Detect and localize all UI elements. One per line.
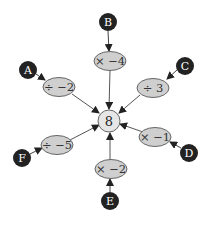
- letter-node-a: A: [19, 61, 37, 79]
- operation-label-e: × −2: [96, 162, 126, 176]
- center-node: 8: [98, 110, 120, 132]
- letter-node-b: B: [99, 13, 117, 31]
- arrow-c: [167, 70, 177, 79]
- operation-label-a: ÷ −2: [44, 80, 74, 94]
- letter-label-e: E: [106, 195, 114, 208]
- operation-node-f: ÷ −5: [41, 136, 73, 155]
- operation-label-d: × −1: [140, 130, 170, 144]
- operation-label-f: ÷ −5: [42, 138, 72, 152]
- arrow-op-f: [70, 125, 99, 140]
- operation-node-b: × −4: [94, 52, 126, 71]
- operation-node-c: ÷ 3: [137, 79, 169, 98]
- operation-label-c: ÷ 3: [143, 81, 164, 95]
- arrow-op-a: [72, 94, 99, 113]
- operation-node-d: × −1: [139, 128, 171, 147]
- arrow-op-b: [109, 70, 110, 109]
- letter-node-f: F: [13, 149, 31, 167]
- operation-label-b: × −4: [95, 54, 125, 68]
- letter-label-c: C: [181, 60, 189, 73]
- letter-label-f: F: [18, 152, 26, 165]
- arrow-b: [108, 31, 109, 51]
- letter-node-c: C: [176, 57, 194, 75]
- letter-label-b: B: [104, 16, 112, 29]
- operations-diagram: 8 × −4 ÷ −2 ÷ 3 ÷ −5 × −1 × −2 B A C F: [0, 0, 207, 227]
- arrow-f: [30, 148, 42, 154]
- operation-node-a: ÷ −2: [43, 78, 75, 97]
- arrow-d: [170, 142, 181, 148]
- letter-label-d: D: [185, 147, 194, 160]
- letter-node-e: E: [101, 192, 119, 210]
- letter-label-a: A: [23, 64, 33, 77]
- center-value: 8: [105, 114, 113, 129]
- arrow-op-c: [119, 95, 140, 113]
- letter-node-d: D: [180, 144, 198, 162]
- operation-node-e: × −2: [95, 160, 127, 179]
